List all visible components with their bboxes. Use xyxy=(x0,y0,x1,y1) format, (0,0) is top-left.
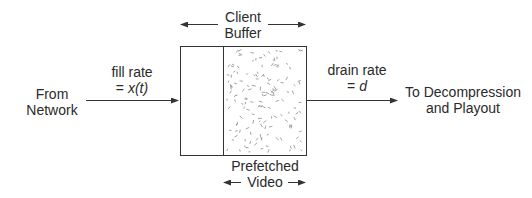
decompression-playout-label: To Decompression and Playout xyxy=(398,84,528,116)
drain-rate-label: drain rate = d xyxy=(317,62,397,94)
client-buffer-label-line2: Buffer xyxy=(213,25,273,41)
drain-rate-variable: d xyxy=(359,78,367,94)
fill-rate-variable: x(t) xyxy=(128,80,148,96)
prefetched-label-line1: Prefetched xyxy=(224,158,306,174)
decompression-line1: To Decompression xyxy=(398,84,528,100)
fill-rate-prefix: = xyxy=(116,80,128,96)
client-buffer-label: Client Buffer xyxy=(213,9,273,41)
prefetched-label-line2: Video xyxy=(224,174,306,190)
fill-rate-label: fill rate = x(t) xyxy=(97,64,167,96)
drain-rate-prefix: = xyxy=(347,78,359,94)
from-network-line2: Network xyxy=(12,102,92,118)
drain-rate-line1: drain rate xyxy=(317,62,397,78)
client-buffer-box xyxy=(181,47,307,156)
drain-rate-formula: = d xyxy=(317,78,397,94)
fill-rate-line1: fill rate xyxy=(97,64,167,80)
prefetched-video-label: Prefetched Video xyxy=(224,158,306,190)
prefetched-video-fill xyxy=(227,49,303,153)
client-buffer-label-line1: Client xyxy=(213,9,273,25)
from-network-label: From Network xyxy=(12,86,92,118)
fill-rate-formula: = x(t) xyxy=(97,80,167,96)
from-network-line1: From xyxy=(12,86,92,102)
decompression-line2: and Playout xyxy=(398,100,528,116)
